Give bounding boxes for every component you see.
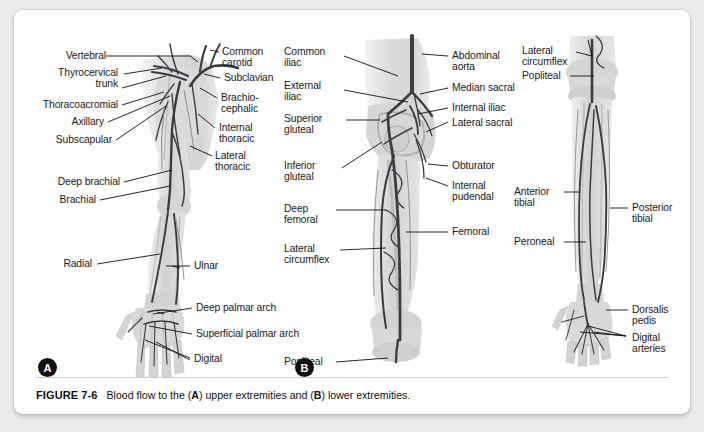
label-brachiocephalic: Brachio- (221, 92, 259, 103)
label-internal-pudendal-line2: pudendal (452, 191, 494, 202)
caption-divider (36, 377, 668, 378)
label-common-carotid-line2: carotid (222, 57, 252, 68)
label-axillary: Axillary (18, 116, 104, 127)
label-internal-iliac: Internal iliac (452, 102, 506, 113)
label-posterior-tibial-line2: tibial (632, 213, 653, 224)
label-median-sacral: Median sacral (452, 82, 515, 93)
label-thyrocervical-trunk: trunk (18, 78, 118, 89)
caption-text-part1: Blood flow to the ( (107, 389, 192, 401)
caption-text-part3: ) lower extremities. (321, 389, 410, 401)
label-brachial: Brachial (18, 194, 96, 205)
figure-illustration-area: Vertebral Thyrocervical trunk Thoracoacr… (14, 10, 690, 378)
label-digital: Digital (194, 353, 222, 364)
label-brachiocephalic-line2: cephalic (221, 103, 258, 114)
label-external-iliac-line2: iliac (284, 91, 301, 102)
label-internal-thoracic: Internal (219, 122, 253, 133)
label-abdominal-aorta: Abdominal (452, 50, 500, 61)
panel-c-lower-leg-illustration (552, 36, 618, 366)
figure-number: FIGURE 7-6 (36, 389, 98, 401)
label-deep-femoral: Deep (284, 203, 308, 214)
label-lateral-sacral: Lateral sacral (452, 117, 512, 128)
label-anterior-tibial: Anterior (514, 186, 549, 197)
label-lateral-circumflex-c: Lateral (522, 45, 553, 56)
label-peroneal: Peroneal (514, 236, 554, 247)
label-deep-femoral-line2: femoral (284, 214, 318, 225)
label-lateral-circumflex-b: Lateral (284, 243, 315, 254)
label-common-iliac-line2: iliac (284, 57, 301, 68)
label-thyrocervical: Thyrocervical (18, 67, 118, 78)
label-superior-gluteal: Superior (284, 113, 322, 124)
figure-card: Vertebral Thyrocervical trunk Thoracoacr… (14, 10, 690, 414)
label-lateral-thoracic-line2: thoracic (215, 161, 250, 172)
label-common-iliac: Common (284, 46, 325, 57)
label-inferior-gluteal: Inferior (284, 160, 315, 171)
label-radial: Radial (18, 258, 92, 269)
label-lateral-circumflex-b-line2: circumflex (284, 254, 329, 265)
caption-text-part2: ) upper extremities and ( (199, 389, 314, 401)
panel-marker-a: A (38, 358, 57, 377)
label-obturator: Obturator (452, 160, 495, 171)
figure-caption: FIGURE 7-6Blood flow to the (A) upper ex… (36, 389, 676, 401)
label-superficial-palmar-arch: Superficial palmar arch (196, 328, 299, 339)
label-digital-arteries-line2: arteries (632, 343, 666, 354)
anatomical-artwork (14, 10, 690, 378)
label-lateral-thoracic: Lateral (215, 150, 246, 161)
label-subscapular: Subscapular (18, 134, 112, 145)
label-external-iliac: External (284, 80, 321, 91)
label-dorsalis-pedis-line2: pedis (632, 315, 656, 326)
label-inferior-gluteal-line2: gluteal (284, 171, 314, 182)
label-digital-arteries: Digital (632, 332, 660, 343)
label-internal-pudendal: Internal (452, 180, 486, 191)
panel-b-leg-illustration (365, 36, 436, 362)
label-ulnar: Ulnar (194, 260, 218, 271)
label-abdominal-aorta-line2: aorta (452, 61, 475, 72)
label-subclavian: Subclavian (224, 72, 273, 83)
caption-label-a: A (191, 389, 199, 401)
label-lateral-circumflex-c-line2: circumflex (522, 56, 567, 67)
label-anterior-tibial-line2: tibial (514, 197, 535, 208)
label-common-carotid: Common (222, 46, 263, 57)
label-posterior-tibial: Posterior (632, 202, 672, 213)
label-superior-gluteal-line2: gluteal (284, 124, 314, 135)
label-vertebral: Vertebral (18, 50, 106, 61)
label-dorsalis-pedis: Dorsalis (632, 304, 668, 315)
label-femoral: Femoral (452, 226, 489, 237)
label-deep-brachial: Deep brachial (18, 176, 120, 187)
label-deep-palmar-arch: Deep palmar arch (196, 302, 276, 313)
label-popliteal-c: Popliteal (522, 70, 561, 81)
label-internal-thoracic-line2: thoracic (219, 133, 254, 144)
label-thoracoacromial: Thoracoacromial (14, 99, 118, 110)
panel-marker-b: B (295, 358, 314, 377)
